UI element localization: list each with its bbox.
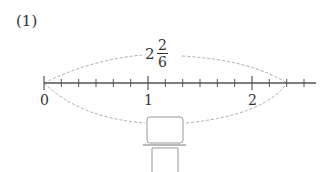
number-line-diagram [0,0,329,172]
tick-label-1: 1 [144,93,153,107]
upper-dashed-arc [44,55,142,83]
tick-label-0: 0 [40,93,49,107]
answer-input[interactable] [148,118,182,142]
denominator: 6 [158,54,167,70]
tick-label-2: 2 [248,93,257,107]
lower-dashed-arc [44,83,145,123]
mixed-number-fraction: 2 6 [157,38,168,69]
mixed-number-whole: 2 [145,47,155,62]
numerator: 2 [158,37,167,53]
